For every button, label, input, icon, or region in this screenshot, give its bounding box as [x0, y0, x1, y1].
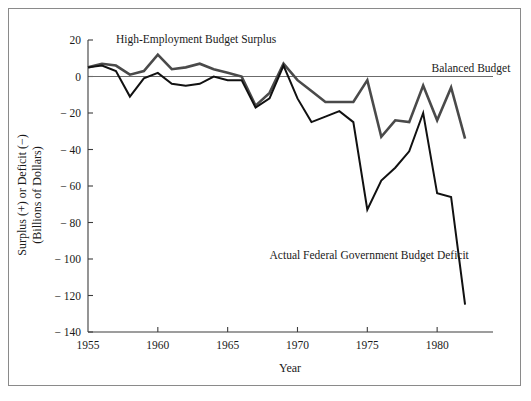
x-tick-label: 1955 — [77, 339, 100, 351]
y-axis-title-line1: Surplus (+) or Deficit (−) — [15, 134, 29, 256]
x-tick-label: 1970 — [286, 339, 309, 351]
annotation-high-employment-budget-surplus: High-Employment Budget Surplus — [116, 33, 277, 46]
y-axis-title-line2: (Billions of Dollars) — [30, 146, 44, 243]
x-tick-label-group: 195519601965197019751980 — [77, 339, 449, 351]
y-tick-label: 20 — [70, 34, 82, 46]
y-tick-label: − 20 — [60, 107, 81, 119]
x-tick-label: 1960 — [146, 339, 169, 351]
y-tick-label-group: 200− 20− 40− 60− 80− 100− 120− 140 — [54, 34, 81, 338]
y-tick-label: − 120 — [54, 290, 81, 302]
annotation-balanced-budget: Balanced Budget — [432, 62, 512, 75]
series-line-actual-federal-budget-deficit — [88, 66, 465, 305]
figure-container: 200− 20− 40− 60− 80− 100− 120− 140 19551… — [0, 0, 531, 401]
y-tick-label: − 80 — [60, 217, 81, 229]
y-tick-label: 0 — [75, 71, 81, 83]
x-tick-label: 1980 — [426, 339, 449, 351]
annotation-actual-federal-budget-deficit: Actual Federal Government Budget Deficit — [270, 249, 470, 262]
y-tick-label: − 100 — [54, 253, 81, 265]
y-tick-label: − 140 — [54, 326, 81, 338]
x-tick-label: 1975 — [356, 339, 379, 351]
chart-svg: 200− 20− 40− 60− 80− 100− 120− 140 19551… — [0, 0, 531, 401]
y-tick-label: − 60 — [60, 180, 81, 192]
series-line-high-employment-budget-surplus — [88, 55, 465, 139]
y-tick-label: − 40 — [60, 144, 81, 156]
x-axis-title: Year — [279, 361, 301, 375]
x-tick-label: 1965 — [216, 339, 239, 351]
